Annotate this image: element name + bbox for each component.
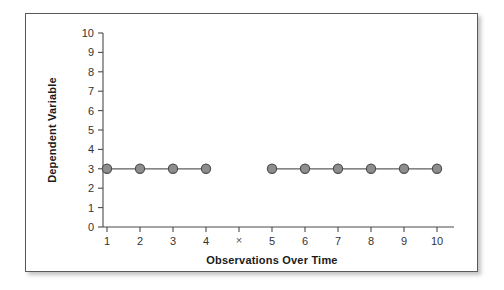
y-tick-label-8: 8 (88, 66, 94, 78)
data-point (333, 164, 342, 173)
data-point (102, 164, 111, 173)
data-point (267, 164, 276, 173)
y-axis-title: Dependent Variable (46, 77, 58, 183)
phase-break-x-icon: × (236, 234, 242, 246)
y-tick-label-7: 7 (88, 85, 94, 97)
x-tick-label-2: 2 (137, 235, 143, 247)
y-tick-label-10: 10 (82, 27, 94, 39)
data-point (300, 164, 309, 173)
y-tick-label-5: 5 (88, 124, 94, 136)
x-tick-marks (107, 227, 437, 232)
chart-panel: 10 9 8 7 6 5 4 3 2 1 0 (25, 13, 478, 272)
y-tick-label-9: 9 (88, 46, 94, 58)
y-tick-label-0: 0 (88, 221, 94, 233)
y-tick-label-6: 6 (88, 105, 94, 117)
y-tick-label-4: 4 (88, 143, 94, 155)
x-tick-label-4: 4 (203, 235, 209, 247)
data-point (399, 164, 408, 173)
x-tick-label-6: 6 (302, 235, 308, 247)
data-point (432, 164, 441, 173)
y-tick-label-1: 1 (88, 202, 94, 214)
data-point (201, 164, 210, 173)
y-tick-label-2: 2 (88, 182, 94, 194)
x-axis-title: Observations Over Time (206, 254, 337, 266)
y-tick-label-3: 3 (88, 163, 94, 175)
data-point (366, 164, 375, 173)
data-point (168, 164, 177, 173)
x-tick-label-3: 3 (170, 235, 176, 247)
x-tick-label-7: 7 (335, 235, 341, 247)
figure-root: 10 9 8 7 6 5 4 3 2 1 0 (0, 0, 504, 290)
chart-plot-area: 10 9 8 7 6 5 4 3 2 1 0 (26, 14, 477, 271)
x-tick-label-8: 8 (368, 235, 374, 247)
x-tick-label-10: 10 (431, 235, 443, 247)
x-tick-label-5: 5 (269, 235, 275, 247)
x-tick-label-9: 9 (401, 235, 407, 247)
y-tick-marks (98, 33, 103, 227)
data-point (135, 164, 144, 173)
x-tick-label-1: 1 (104, 235, 110, 247)
